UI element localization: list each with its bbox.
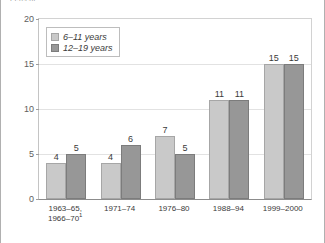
x-tick-label: 1963–65,1966–701: [38, 204, 92, 224]
x-tick-label: 1999–2000: [256, 204, 310, 214]
bar: 15: [264, 64, 284, 199]
bar-group: 75: [155, 19, 195, 199]
legend-swatch-12-19: [51, 44, 59, 52]
bar-value-label: 15: [289, 53, 299, 63]
legend-label: 6–11 years: [63, 32, 107, 42]
bar-value-label: 5: [182, 143, 187, 153]
bar: 4: [46, 163, 66, 199]
legend-swatch-6-11: [51, 33, 59, 41]
y-tick-mark: [36, 199, 39, 200]
y-tick-label: 20: [24, 14, 34, 24]
chart-figure: Percent 05101520 45467511111515 1963–65,…: [0, 0, 325, 243]
bar-value-label: 11: [235, 89, 244, 99]
bar: 5: [66, 154, 86, 199]
x-tick-label: 1971–74: [92, 204, 146, 214]
x-tick-label: 1988–94: [201, 204, 255, 214]
y-tick-label: 10: [24, 104, 34, 114]
bar: 5: [175, 154, 195, 199]
y-tick-label: 15: [24, 59, 34, 69]
bar: 11: [229, 100, 249, 199]
legend-row: 12–19 years: [51, 42, 113, 53]
bar-group: 1111: [209, 19, 249, 199]
bar-value-label: 7: [162, 125, 167, 135]
y-tick-label: 5: [29, 149, 34, 159]
bar: 7: [155, 136, 175, 199]
bar: 6: [121, 145, 141, 199]
bar: 4: [101, 163, 121, 199]
legend-label: 12–19 years: [63, 43, 113, 53]
y-tick-label: 0: [29, 194, 34, 204]
axis-caption: Percent: [10, 0, 36, 1]
chart-legend: 6–11 years12–19 years: [46, 27, 120, 57]
bar-value-label: 5: [74, 143, 79, 153]
bar-value-label: 11: [215, 89, 224, 99]
footnote-marker: 1: [79, 212, 82, 218]
legend-row: 6–11 years: [51, 31, 113, 42]
bar-value-label: 15: [269, 53, 279, 63]
bar-value-label: 6: [128, 134, 133, 144]
x-tick-label: 1976–80: [147, 204, 201, 214]
bar: 11: [209, 100, 229, 199]
bar: 15: [284, 64, 304, 199]
bar-value-label: 4: [108, 152, 113, 162]
bar-value-label: 4: [54, 152, 59, 162]
bar-group: 1515: [264, 19, 304, 199]
